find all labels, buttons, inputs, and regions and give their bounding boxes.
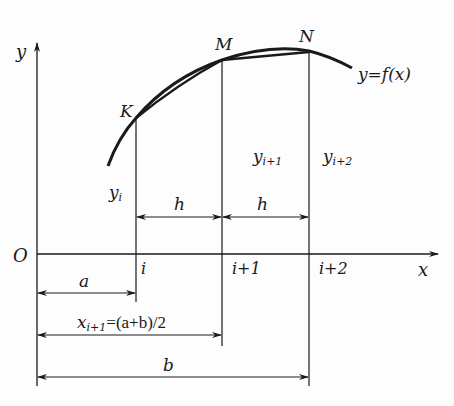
ordinate-y-i2-label: yi+2	[322, 146, 352, 168]
ordinate-y-i-label: yi	[108, 182, 122, 204]
dimension-label-a: a	[79, 271, 89, 291]
y-axis-label: y	[15, 41, 27, 62]
step-label-h1: h	[174, 194, 185, 214]
function-curve	[108, 49, 352, 166]
step-label-h2: h	[257, 194, 268, 214]
tick-label-i1: i+1	[232, 259, 261, 278]
dimension-label-midpoint: xi+1=(a+b)/2	[77, 312, 166, 334]
x-axis-label: x	[418, 259, 428, 280]
dimension-label-b: b	[163, 355, 174, 375]
tick-label-i: i	[141, 259, 146, 278]
point-n-label: N	[298, 26, 315, 46]
origin-label: O	[13, 245, 28, 266]
point-m-label: M	[214, 34, 233, 54]
ordinate-y-i1-label: yi+1	[252, 146, 282, 168]
chord-km	[136, 60, 222, 118]
point-k-label: K	[119, 101, 134, 121]
curve-label: y=f(x)	[357, 64, 411, 84]
tick-label-i2: i+2	[319, 259, 348, 278]
simpson-rule-diagram: y x O K M N y=f(x) yi yi+1 yi+2 i i+1 i+…	[0, 0, 454, 406]
